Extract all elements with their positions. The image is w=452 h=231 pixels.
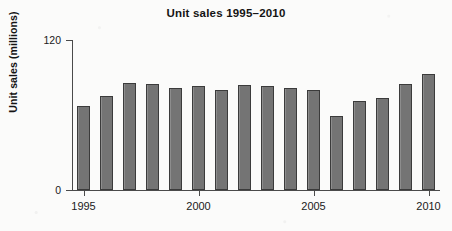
chart-figure: Unit sales 1995–2010 Unit sales (million… [0,0,452,231]
y-axis-tick-label: 120 [43,34,61,46]
bar [422,74,435,190]
bar [215,90,228,190]
x-axis-tick-label: 2000 [186,200,210,212]
x-axis-tick-label: 2005 [301,200,325,212]
bar [238,85,251,190]
y-axis-tick: 120 [66,40,72,41]
bar [146,84,159,190]
y-axis-tick: 0 [66,190,72,191]
y-axis-label: Unit sales (millions) [7,0,19,132]
bar [399,84,412,190]
bar [77,106,90,190]
plot-area: 0120 1995200020052010 [72,40,440,190]
bar [169,88,182,191]
x-axis-tick-label: 1995 [71,200,95,212]
x-axis-line [66,190,440,191]
chart-title: Unit sales 1995–2010 [0,7,452,19]
y-axis-tick-label: 0 [55,184,61,196]
x-axis-tick-label: 2010 [416,200,440,212]
x-axis-tick [429,190,430,196]
bar [284,88,297,191]
x-axis-tick [84,190,85,196]
x-axis-tick [314,190,315,196]
bar [192,86,205,190]
bar [261,86,274,190]
y-axis-line [72,40,73,190]
bar [353,101,366,190]
bar [307,90,320,190]
bar [376,98,389,191]
bar [100,96,113,190]
x-axis-tick [199,190,200,196]
bar [123,83,136,191]
bar [330,116,343,190]
